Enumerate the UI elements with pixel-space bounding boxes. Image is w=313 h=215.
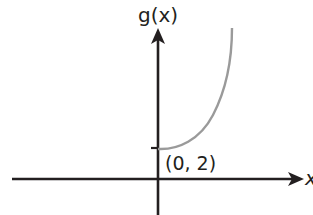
point-label-0-2: (0, 2) <box>165 152 216 174</box>
y-axis-label: g(x) <box>138 3 178 27</box>
x-axis-label: x <box>304 166 313 190</box>
graph-canvas: g(x) (0, 2) x <box>0 0 313 215</box>
function-curve-g <box>158 28 232 149</box>
